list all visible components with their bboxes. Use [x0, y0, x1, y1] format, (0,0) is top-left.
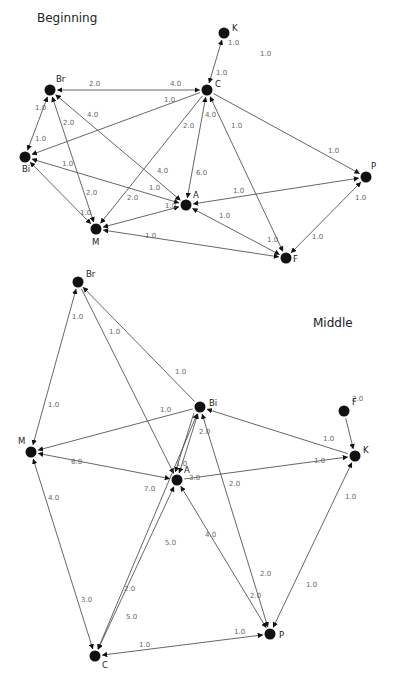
- node-label: C: [215, 79, 221, 89]
- edge-weight-label: 2.0: [250, 592, 261, 600]
- edge-weight-label: 1.0: [149, 184, 160, 192]
- node-label: K: [232, 23, 238, 33]
- edge-weight-label: 1.0: [228, 39, 239, 47]
- edge-weight-label: 1.0: [312, 233, 323, 241]
- node-br: [45, 85, 56, 96]
- node-k: [350, 451, 361, 462]
- edge-p-f: [291, 182, 360, 252]
- edge-weight-label: 5.0: [126, 613, 137, 621]
- edge-f-k: [346, 418, 353, 448]
- edge-weight-label: 1.0: [267, 236, 278, 244]
- edge-a-p: [193, 178, 358, 204]
- node-label: K: [363, 445, 369, 455]
- node-f: [281, 253, 292, 264]
- node-c: [90, 651, 101, 662]
- edge-bi-br: [83, 287, 195, 401]
- node-label: Br: [56, 74, 66, 84]
- node-bi: [20, 152, 31, 163]
- edge-weight-label: 1.0: [145, 232, 156, 240]
- edge-weight-label: 6.0: [196, 169, 207, 177]
- edge-weight-label: 4.0: [170, 80, 181, 88]
- edge-c-a: [98, 487, 174, 649]
- edge-m-a: [38, 453, 169, 478]
- edge-weight-label: 1.0: [314, 457, 325, 465]
- edge-weight-label: 1.0: [48, 401, 59, 409]
- edge-weight-label: 2.0: [86, 189, 97, 197]
- edge-weight-label: 3.0: [81, 596, 92, 604]
- edge-weight-label: 3.0: [189, 474, 200, 482]
- edge-weight-label: 4.0: [205, 531, 216, 539]
- node-f: [339, 406, 350, 417]
- edge-weight-label: 1.0: [72, 313, 83, 321]
- edge-weight-label: 1.0: [160, 406, 171, 414]
- edge-weight-label: 1.0: [62, 160, 73, 168]
- edge-weight-label: 1.0: [234, 628, 245, 636]
- node-bi: [195, 402, 206, 413]
- edge-br-a: [81, 289, 173, 474]
- edge-c-p: [214, 94, 360, 174]
- edge-p-k: [273, 463, 352, 627]
- network-diagram: 1.01.02.04.01.02.04.06.01.01.01.01.01.02…: [0, 0, 393, 687]
- edge-weight-label: 2.0: [260, 570, 271, 578]
- node-label: M: [92, 237, 99, 247]
- node-a: [172, 475, 183, 486]
- edge-weight-label: 4.0: [87, 111, 98, 119]
- edge-weight-label: 1.0: [109, 328, 120, 336]
- edge-weight-label: 1.0: [260, 50, 271, 58]
- edge-m-c: [33, 459, 93, 649]
- node-label: F: [352, 397, 357, 407]
- node-label: A: [193, 190, 199, 200]
- edge-bi-m: [38, 409, 193, 450]
- node-label: F: [293, 254, 298, 264]
- edge-weight-label: 2.0: [229, 480, 240, 488]
- edge-weight-label: 2.0: [199, 428, 210, 436]
- edge-weight-label: 2.0: [127, 194, 138, 202]
- edge-weight-label: 1.0: [355, 194, 366, 202]
- node-a: [181, 200, 192, 211]
- edge-weight-label: 1.0: [164, 96, 175, 104]
- node-m: [26, 447, 37, 458]
- edge-weight-label: 1.0: [139, 641, 150, 649]
- edge-weight-label: 1.0: [80, 209, 91, 217]
- edge-c-f: [210, 97, 283, 251]
- edge-bi-a: [32, 159, 179, 203]
- edge-weight-label: 2.0: [183, 122, 194, 130]
- edge-weight-label: 1.0: [306, 581, 317, 589]
- edge-c-a: [187, 97, 205, 197]
- edge-weight-label: 1.0: [216, 69, 227, 77]
- edge-weight-label: 1.0: [165, 202, 176, 210]
- node-label: Br: [86, 269, 96, 279]
- node-c: [202, 85, 213, 96]
- node-label: P: [279, 630, 284, 640]
- edge-m-f: [103, 230, 278, 257]
- node-p: [265, 629, 276, 640]
- edge-weight-label: 1.0: [233, 187, 244, 195]
- edge-weight-label: 7.0: [144, 485, 155, 493]
- edge-weight-label: 4.0: [205, 111, 216, 119]
- edge-weight-label: 1.0: [35, 135, 46, 143]
- node-label: M: [18, 436, 25, 446]
- edge-weight-label: 2.0: [124, 585, 135, 593]
- edge-weight-label: 1.0: [231, 122, 242, 130]
- edge-weight-label: 1.0: [328, 147, 339, 155]
- node-label: Bi: [22, 164, 30, 174]
- edge-weight-label: 4.0: [48, 494, 59, 502]
- node-label: A: [184, 465, 190, 475]
- edge-weight-label: 1.0: [35, 104, 46, 112]
- node-label: P: [371, 161, 376, 171]
- node-label: C: [102, 660, 108, 670]
- edge-weight-label: 6.0: [71, 458, 82, 466]
- node-label: Bi: [209, 398, 217, 408]
- edge-weight-label: 2.0: [89, 80, 100, 88]
- edge-weight-label: 1.0: [219, 212, 230, 220]
- weight-labels-layer: 1.01.02.04.01.02.04.06.01.01.01.01.01.02…: [35, 39, 366, 649]
- node-k: [219, 28, 230, 39]
- node-p: [361, 172, 372, 183]
- edge-weight-label: 1.0: [175, 368, 186, 376]
- node-m: [91, 224, 102, 235]
- edge-k-bi: [207, 409, 348, 453]
- edge-c-bi: [98, 414, 197, 649]
- edge-c-p: [102, 635, 262, 655]
- edge-p-a: [181, 486, 266, 627]
- edge-weight-label: 1.0: [345, 493, 356, 501]
